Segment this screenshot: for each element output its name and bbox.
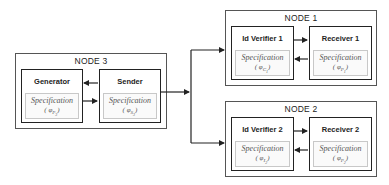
- spec-formula: ( φP2): [314, 154, 367, 165]
- receiver-2-specification: Specification ( φP2): [313, 141, 368, 167]
- spec-label: Specification: [236, 144, 289, 153]
- spec-formula: ( φC1): [236, 63, 289, 74]
- id-verifier-1-specification: Specification ( φC1): [235, 50, 290, 76]
- id-verifier-2-title: Id Verifier 2: [232, 125, 293, 134]
- spec-label: Specification: [314, 144, 367, 153]
- generator-component: Generator Specification ( φP3): [21, 69, 83, 123]
- receiver-1-specification: Specification ( φP1): [313, 50, 368, 76]
- id-verifier-2-specification: Specification ( φI2): [235, 141, 290, 167]
- node-1-title: NODE 1: [226, 13, 376, 23]
- generator-title: Generator: [22, 77, 82, 86]
- spec-label: Specification: [26, 96, 78, 105]
- node-2: NODE 2 Id Verifier 2 Specification ( φI2…: [225, 101, 377, 177]
- spec-label: Specification: [314, 53, 367, 62]
- spec-label: Specification: [236, 53, 289, 62]
- id-verifier-2-component: Id Verifier 2 Specification ( φI2): [231, 117, 294, 171]
- spec-label: Specification: [104, 96, 156, 105]
- receiver-2-component: Receiver 2 Specification ( φP2): [309, 117, 372, 171]
- sender-specification: Specification ( φS3): [103, 93, 157, 119]
- spec-formula: ( φI2): [236, 154, 289, 165]
- sender-title: Sender: [100, 77, 160, 86]
- receiver-1-component: Receiver 1 Specification ( φP1): [309, 26, 372, 80]
- generator-specification: Specification ( φP3): [25, 93, 79, 119]
- node-3-title: NODE 3: [16, 56, 166, 66]
- id-verifier-1-title: Id Verifier 1: [232, 34, 293, 43]
- node-2-title: NODE 2: [226, 104, 376, 114]
- node-3: NODE 3 Generator Specification ( φP3) Se…: [15, 53, 167, 129]
- receiver-1-title: Receiver 1: [310, 34, 371, 43]
- spec-formula: ( φS3): [104, 106, 156, 117]
- receiver-2-title: Receiver 2: [310, 125, 371, 134]
- spec-formula: ( φP1): [314, 63, 367, 74]
- spec-formula: ( φP3): [26, 106, 78, 117]
- sender-component: Sender Specification ( φS3): [99, 69, 161, 123]
- id-verifier-1-component: Id Verifier 1 Specification ( φC1): [231, 26, 294, 80]
- node-1: NODE 1 Id Verifier 1 Specification ( φC1…: [225, 10, 377, 86]
